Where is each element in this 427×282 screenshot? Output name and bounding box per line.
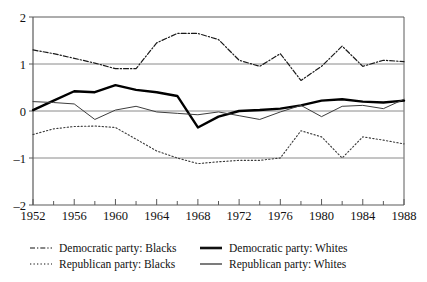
x-tick-label-1976: 1976 (268, 209, 293, 223)
x-tick-label-1972: 1972 (227, 209, 252, 223)
legend-label-0: Democratic party: Blacks (59, 242, 177, 255)
y-tick-label-0: 0 (20, 105, 26, 119)
x-tick-label-1952: 1952 (21, 209, 46, 223)
x-tick-label-1964: 1964 (144, 209, 170, 223)
legend-label-3: Republican party: Whites (229, 258, 347, 271)
x-tick-label-1980: 1980 (309, 209, 334, 223)
line-chart: 210–1–2195219561960196419681972197619801… (0, 0, 427, 282)
y-tick-label--1: –1 (13, 152, 27, 166)
x-tick-label-1984: 1984 (350, 209, 376, 223)
legend-label-1: Democratic party: Whites (229, 242, 348, 255)
legend-label-2: Republican party: Blacks (59, 258, 176, 271)
y-tick-label-2: 2 (20, 11, 26, 25)
x-tick-label-1960: 1960 (103, 209, 128, 223)
x-tick-label-1968: 1968 (185, 209, 210, 223)
chart-container: 210–1–2195219561960196419681972197619801… (0, 0, 427, 282)
chart-background (0, 0, 427, 282)
x-tick-label-1956: 1956 (62, 209, 87, 223)
x-tick-label-1988: 1988 (392, 209, 417, 223)
y-tick-label-1: 1 (20, 58, 26, 72)
